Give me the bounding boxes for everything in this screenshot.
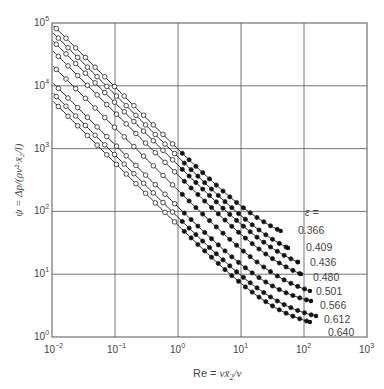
data-point-filled: [241, 224, 245, 228]
data-point-filled: [207, 177, 211, 181]
data-point-filled: [187, 199, 191, 203]
data-point-open: [151, 138, 156, 143]
data-point-filled: [228, 195, 232, 199]
data-point-filled: [282, 303, 286, 307]
data-point-filled: [262, 265, 266, 269]
data-point-open: [153, 182, 158, 187]
data-point-filled: [182, 229, 186, 233]
data-point-open: [105, 134, 110, 139]
data-point-filled: [196, 242, 200, 246]
data-point-filled: [275, 299, 279, 303]
data-point-open: [75, 73, 80, 78]
data-point-filled: [194, 164, 198, 168]
data-point-filled: [209, 255, 213, 259]
data-point-filled: [296, 260, 300, 264]
data-point-open: [54, 42, 59, 47]
data-point-filled: [201, 239, 205, 243]
data-point-filled: [209, 187, 213, 191]
data-point-filled: [221, 206, 225, 210]
y-tick-label: 102: [34, 203, 49, 216]
data-point-filled: [308, 320, 312, 324]
data-point-filled: [189, 236, 193, 240]
data-point-open: [75, 124, 80, 129]
data-point-open: [163, 142, 168, 147]
data-point-open: [103, 75, 108, 80]
data-point-filled: [277, 288, 281, 292]
data-point-filled: [264, 252, 268, 256]
data-point-filled: [284, 311, 288, 315]
data-point-filled: [196, 174, 200, 178]
data-point-open: [73, 61, 78, 66]
data-point-open: [54, 94, 59, 99]
data-point-filled: [201, 187, 205, 191]
x-tick-label: 100: [170, 342, 185, 355]
data-point-filled: [302, 287, 306, 291]
data-point-filled: [216, 261, 220, 265]
data-point-filled: [282, 278, 286, 282]
data-point-open: [64, 52, 69, 57]
data-point-open: [85, 133, 90, 138]
data-point-filled: [209, 205, 213, 209]
data-point-filled: [250, 271, 254, 275]
data-point-filled: [201, 212, 205, 216]
data-point-filled: [248, 211, 252, 215]
data-point-filled: [223, 218, 227, 222]
data-point-filled: [189, 186, 193, 190]
x-axis-label: Re = vx̄2/ν: [193, 367, 241, 382]
data-point-filled: [235, 218, 239, 222]
data-point-open: [124, 154, 129, 159]
data-point-filled: [235, 270, 239, 274]
data-point-open: [172, 220, 177, 225]
data-point-filled: [270, 257, 274, 261]
data-point-filled: [257, 247, 261, 251]
data-series: [53, 26, 318, 325]
data-point-open: [134, 131, 139, 136]
data-point-filled: [237, 230, 241, 234]
data-point-filled: [216, 193, 220, 197]
data-point-filled: [203, 199, 207, 203]
data-point-filled: [209, 237, 213, 241]
data-point-filled: [196, 192, 200, 196]
data-point-open: [151, 123, 156, 128]
data-point-filled: [196, 224, 200, 228]
data-point-filled: [203, 249, 207, 253]
data-point-filled: [187, 174, 191, 178]
series-curve: [53, 94, 316, 316]
chart: 10−210−1100101102103 100101102103104105 …: [0, 0, 384, 389]
data-point-filled: [286, 246, 290, 250]
data-point-filled: [270, 284, 274, 288]
data-point-filled: [189, 168, 193, 172]
data-point-open: [93, 133, 98, 138]
data-point-filled: [248, 281, 252, 285]
legend-title: ε =: [305, 206, 319, 218]
data-point-open: [151, 191, 156, 196]
data-point-open: [112, 84, 117, 89]
data-point-open: [153, 150, 158, 155]
data-point-open: [75, 55, 80, 60]
data-point-filled: [270, 304, 274, 308]
data-point-filled: [308, 289, 312, 293]
data-point-filled: [187, 158, 191, 162]
data-point-filled: [237, 260, 241, 264]
data-point-filled: [201, 171, 205, 175]
data-point-open: [132, 171, 137, 176]
data-point-open: [170, 183, 175, 188]
epsilon-label: 0.501: [316, 285, 342, 297]
data-point-filled: [291, 314, 295, 318]
data-point-open: [161, 148, 166, 153]
data-point-open: [124, 172, 129, 177]
data-point-filled: [275, 274, 279, 278]
data-point-filled: [309, 299, 313, 303]
data-point-open: [64, 36, 69, 41]
epsilon-label: 0.480: [313, 271, 339, 283]
data-point-open: [141, 181, 146, 186]
data-point-open: [103, 143, 108, 148]
data-point-filled: [228, 212, 232, 216]
data-point-filled: [298, 296, 302, 300]
data-point-filled: [230, 274, 234, 278]
data-point-filled: [250, 223, 254, 227]
data-point-open: [112, 152, 117, 157]
data-point-open: [95, 93, 100, 98]
data-point-filled: [180, 151, 184, 155]
epsilon-label: 0.409: [306, 241, 332, 253]
